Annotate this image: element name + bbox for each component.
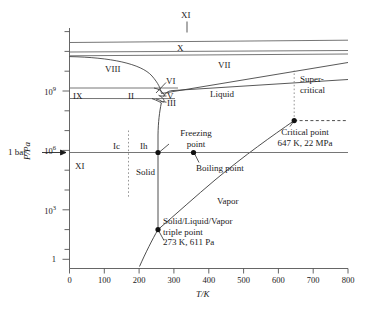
ice-III-leader-line [161,101,167,102]
callout-freezing-point: Freezing point [171,128,221,149]
freezing-point-marker [155,150,160,155]
triple-point-marker [155,227,160,232]
boiling-point-marker [191,150,196,155]
y-axis-ticks [63,32,70,260]
y-tick-label-1e9: 109 [32,85,56,97]
callout-critical-point-line1: Critical point [255,127,355,138]
x-tick-label-600: 600 [266,275,290,285]
x-tick-label-100: 100 [92,275,116,285]
phase-diagram-figure: 109 106 103 1 P/Pa 0 100 200 300 400 500… [0,0,365,310]
region-label-ice-VIII: VIII [105,64,121,75]
x-tick-label-800: 800 [336,275,360,285]
x-tick-label-200: 200 [127,275,151,285]
region-label-liquid: Liquid [210,89,234,100]
x-axis-ticks [70,269,349,274]
x-axis-title: T/K [196,289,210,299]
melting-curve-Ih [158,103,161,230]
region-label-ice-Ih: Ih [140,141,148,152]
region-label-solid: Solid [136,167,155,178]
callout-freezing-point-line2: point [171,139,221,150]
callout-triple-point-line3: 273 K, 611 Pa [163,237,233,248]
region-label-ice-X: X [177,43,184,54]
region-label-ice-XI-bottom: XI [75,161,85,172]
region-label-ice-Ic: Ic [113,141,120,152]
x-tick-label-700: 700 [301,275,325,285]
one-bar-label: 1 bar [8,147,26,158]
x-tick-label-500: 500 [232,275,256,285]
region-label-ice-IX: IX [73,91,83,102]
callout-freezing-point-line1: Freezing [171,128,221,139]
x-tick-label-300: 300 [162,275,186,285]
region-label-ice-II: II [128,91,134,102]
region-label-ice-III: III [167,98,176,109]
callout-critical-point-line2: 647 K, 22 MPa [255,138,355,149]
critical-point-marker [292,118,297,123]
region-label-vapor: Vapor [217,196,239,207]
freezing-point-leader-line [160,144,170,152]
callout-supercritical: Super- critical [300,74,325,95]
callout-critical-point: Critical point 647 K, 22 MPa [255,127,355,148]
callout-boiling-point: Boiling point [196,163,244,174]
y-tick-label-1e6: 106 [32,144,56,156]
y-tick-label-1e3: 103 [32,204,56,216]
callout-triple-point: Solid/Liquid/Vapor triple point 273 K, 6… [163,216,233,248]
region-label-ice-XI-top: XI [181,10,191,21]
region-label-ice-VI: VI [166,76,176,87]
callout-triple-point-line1: Solid/Liquid/Vapor [163,216,233,227]
x-tick-label-0: 0 [58,275,82,285]
callout-supercritical-line2: critical [300,85,325,96]
y-tick-label-1: 1 [32,254,56,264]
region-label-ice-VII: VII [218,60,231,71]
sublimation-curve [140,230,159,267]
x-tick-label-400: 400 [197,275,221,285]
callout-triple-point-line2: triple point [163,227,233,238]
callout-supercritical-line1: Super- [300,74,325,85]
